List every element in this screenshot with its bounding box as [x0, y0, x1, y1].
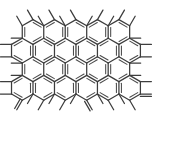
chemical-structure-figure: Polycyclic aromatic hydrocarbon lattice — [0, 0, 184, 144]
structure-svg — [0, 0, 184, 144]
figure-background — [0, 0, 184, 144]
